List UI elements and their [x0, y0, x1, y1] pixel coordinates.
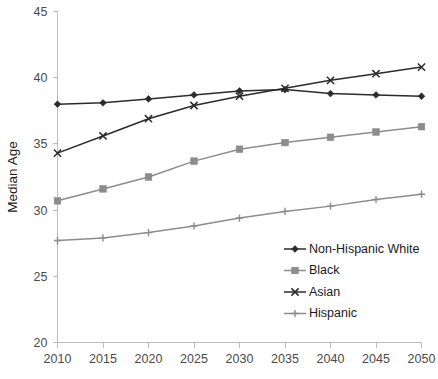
legend-label: Asian: [309, 285, 340, 299]
legend-label: Hispanic: [309, 306, 357, 320]
y-axis-title: Median Age: [5, 141, 20, 212]
data-point-marker: [418, 93, 425, 100]
data-point-marker: [191, 158, 198, 165]
x-tick-label: 2050: [408, 352, 436, 366]
data-point-marker: [418, 123, 425, 130]
data-point-marker: [54, 237, 61, 244]
data-point-marker: [145, 229, 152, 236]
legend-item-asian: Asian: [284, 285, 340, 299]
legend-item-non-hispanic-white: Non-Hispanic White: [284, 242, 420, 256]
legend-item-hispanic: Hispanic: [284, 306, 357, 320]
x-tick-label: 2045: [362, 352, 390, 366]
legend-marker: [291, 310, 298, 317]
data-point-marker: [372, 196, 379, 203]
legend-label: Non-Hispanic White: [309, 242, 420, 256]
data-point-marker: [373, 129, 380, 136]
x-tick-label: 2030: [226, 352, 254, 366]
data-point-marker: [373, 92, 380, 99]
data-point-marker: [327, 134, 334, 141]
data-point-marker: [145, 174, 152, 181]
chart-legend: Non-Hispanic WhiteBlackAsianHispanic: [284, 242, 420, 321]
median-age-line-chart: 2025303540452010201520202025203020352040…: [0, 0, 438, 379]
data-point-marker: [99, 132, 106, 139]
series-line: [58, 67, 422, 153]
y-tick-label: 45: [34, 5, 48, 19]
data-point-marker: [236, 146, 243, 153]
y-tick-label: 35: [34, 137, 48, 151]
data-point-marker: [281, 208, 288, 215]
x-tick-label: 2025: [180, 352, 208, 366]
series-hispanic: [54, 191, 425, 245]
legend-label: Black: [309, 263, 340, 277]
data-point-marker: [100, 99, 107, 106]
y-tick-label: 40: [34, 71, 48, 85]
x-tick-label: 2015: [89, 352, 117, 366]
x-tick-label: 2020: [135, 352, 163, 366]
data-point-marker: [100, 186, 107, 193]
data-point-marker: [236, 214, 243, 221]
data-point-marker: [418, 191, 425, 198]
legend-marker: [292, 267, 299, 274]
data-point-marker: [327, 90, 334, 97]
legend-marker: [292, 246, 299, 253]
x-tick-label: 2035: [271, 352, 299, 366]
data-point-marker: [99, 234, 106, 241]
y-tick-label: 20: [34, 336, 48, 350]
data-point-marker: [145, 95, 152, 102]
y-axis-ticks: 202530354045: [34, 5, 58, 350]
legend-item-black: Black: [284, 263, 340, 277]
x-tick-label: 2040: [317, 352, 345, 366]
series-black: [54, 123, 425, 204]
data-point-marker: [190, 222, 197, 229]
x-axis-ticks: 201020152020202520302035204020452050: [44, 343, 436, 366]
series-line: [58, 127, 422, 201]
data-point-marker: [54, 198, 61, 205]
data-point-marker: [282, 139, 289, 146]
y-tick-label: 25: [34, 270, 48, 284]
series-asian: [54, 64, 425, 157]
chart-axes: [58, 12, 422, 343]
y-tick-label: 30: [34, 204, 48, 218]
chart-canvas: 2025303540452010201520202025203020352040…: [0, 0, 438, 379]
data-point-marker: [54, 101, 61, 108]
data-point-marker: [327, 203, 334, 210]
data-point-marker: [191, 92, 198, 99]
x-tick-label: 2010: [44, 352, 72, 366]
